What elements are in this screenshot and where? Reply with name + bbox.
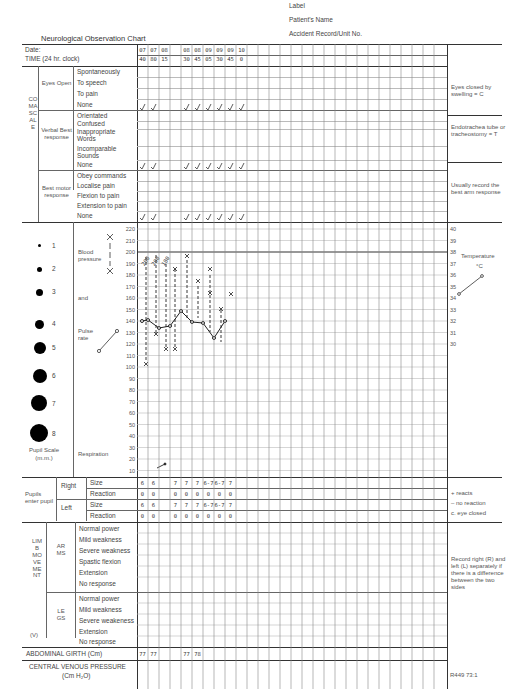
eyes-to-pain: To pain (77, 91, 98, 98)
pupil-size-4-label: 4 (52, 321, 56, 328)
pupil-size-7-label: 7 (52, 401, 56, 408)
limb-divider-1 (46, 522, 47, 638)
legs-normal-power: Normal power (79, 596, 119, 603)
legs-mild-weakness: Mild weakness (79, 607, 122, 614)
motor-flexion: Flexion to pain (77, 193, 119, 200)
pupil-legend-no-reaction: – no reaction (451, 500, 486, 507)
eyes-spontaneously: Spontaneously (77, 69, 120, 76)
pupil-size-7-icon (31, 395, 47, 411)
legs-severe-weakness: Severe weakeness (79, 618, 134, 625)
legs-no-response: No response (79, 639, 116, 646)
cvp-label: CENTRAL VENOUS PRESSURE (29, 664, 126, 671)
left-axis: 220 210 200 190 180 170 160 150 140 130 … (115, 226, 137, 476)
girth-label: ABDOMINAL GIRTH (Cm) (26, 651, 102, 658)
motor-obey: Obey commands (77, 173, 126, 180)
bp-legend-icon (105, 233, 115, 275)
pupil-size-6-label: 6 (52, 373, 56, 380)
arms-severe-weakness: Severe weakness (79, 548, 130, 555)
pupil-size-2-icon (37, 267, 42, 272)
motor-extension: Extension to pain (77, 203, 127, 210)
motor-localise: Localise pain (77, 183, 115, 190)
pupil-right-size-label: Size (90, 480, 103, 487)
verbal-label: Verbal Best response (40, 127, 73, 141)
pupil-right-reaction-label: Reaction (90, 491, 116, 498)
arms-label: ARMS (56, 543, 66, 557)
temperature-label: Temperature (461, 253, 495, 260)
verbal-none: None (77, 162, 93, 169)
note-eyes: Eyes closed by swelling = C (451, 84, 509, 98)
pupil-legend-eye-closed: c. eye closed (451, 510, 486, 517)
note-verbal: Endotrachea tube or tracheostomy = T (451, 124, 506, 138)
chart-title: Neurological Observation Chart (41, 34, 146, 43)
pupil-size-8-label: 8 (52, 431, 56, 438)
bp-label: Blood pressure (78, 249, 108, 263)
pupil-legend-reacts: + reacts (451, 490, 473, 497)
pupil-scale-label: Pupil Scale (24, 447, 64, 454)
verbal-inappropriate: Inappropriate Words (77, 129, 132, 142)
arms-mild-weakness: Mild weakness (79, 537, 122, 544)
arms-spastic-flexion: Spastic flexion (79, 559, 121, 566)
legs-extension: Extension (79, 629, 108, 636)
legs-label: LEGS (56, 608, 66, 622)
motor-none: None (77, 213, 93, 220)
coma-scale-side-label: COMA SCALE (28, 96, 38, 130)
pupil-size-6-icon (33, 369, 47, 383)
pupil-size-3-label: 3 (52, 289, 56, 296)
arms-normal-power: Normal power (79, 526, 119, 533)
form-code: R449 73:1 (450, 672, 478, 679)
limb-note: Record right (R) and left (L) separately… (451, 556, 506, 590)
label-field: Label (289, 3, 305, 10)
eyes-none: None (77, 102, 93, 109)
note-divider-1 (447, 115, 502, 116)
pupil-size-1-icon (38, 244, 41, 247)
verbal-orientated: Orientated (77, 113, 107, 120)
temperature-unit: °C (476, 263, 483, 270)
date-label: Date: (25, 47, 41, 54)
eyes-open-label: Eyes Open (40, 80, 73, 87)
cvp-unit: (Cm H₂O) (62, 673, 91, 680)
note-divider-2 (447, 162, 502, 163)
temperature-legend-icon (456, 272, 486, 298)
vitals-divider (73, 222, 74, 477)
pupil-left-size-label: Size (90, 502, 103, 509)
note-motor: Usually record the best arm response (451, 182, 506, 196)
motor-label: Best motor response (40, 185, 73, 199)
limb-side-label: LIMB MOVEMENT (32, 538, 42, 579)
limb-divider-2 (75, 522, 76, 638)
verbal-confused: Confused (77, 121, 105, 128)
coma-group-divider (73, 66, 74, 190)
limb-suffix: (V) (30, 632, 38, 639)
pupil-left-reaction-label: Reaction (90, 513, 116, 520)
arms-no-response: No response (79, 581, 116, 588)
pupil-scale-unit: (m.m.) (24, 455, 64, 462)
pupil-size-4-icon (35, 320, 44, 329)
pupil-size-5-icon (34, 342, 46, 354)
and-label: and (78, 295, 88, 302)
patient-name-field: Patient's Name (289, 17, 333, 24)
arms-extension: Extension (79, 570, 108, 577)
pupil-size-1-label: 1 (52, 243, 56, 250)
record-no-field: Accident Record/Unit No. (289, 31, 362, 38)
eyes-to-speech: To speech (77, 80, 107, 87)
pupil-size-2-label: 2 (52, 266, 56, 273)
respiration-label: Respiration (78, 451, 108, 458)
pupil-left-label: Left (61, 505, 72, 512)
column-grid (137, 44, 449, 689)
pupil-size-3-icon (36, 289, 43, 296)
pupil-size-8-icon (30, 424, 48, 442)
verbal-incomparable: Incomparable Sounds (77, 146, 132, 159)
motor-side-divider (38, 170, 39, 222)
pupil-size-5-label: 5 (52, 345, 56, 352)
time-label: TIME (24 hr. clock) (25, 56, 80, 63)
pupils-label: Pupils enter pupil (25, 491, 55, 505)
pupil-right-label: Right (61, 483, 76, 490)
